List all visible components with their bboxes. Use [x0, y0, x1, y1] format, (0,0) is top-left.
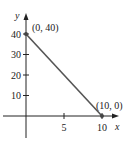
x-tick-label: 10 — [97, 122, 107, 133]
y-axis-arrow-icon — [24, 13, 29, 20]
y-tick-label: 20 — [11, 70, 21, 81]
y-tick-label: 40 — [11, 29, 21, 40]
series — [24, 32, 104, 118]
ticks: 51010203040 — [11, 29, 107, 134]
point-label: (10, 0) — [96, 100, 123, 112]
labels: xy(0, 40)(10, 0) — [14, 10, 123, 132]
y-tick-label: 30 — [11, 49, 21, 60]
y-tick-label: 10 — [11, 90, 21, 101]
series-line — [26, 34, 102, 116]
data-point — [100, 114, 104, 118]
data-point — [24, 32, 28, 36]
x-axis-label: x — [114, 121, 120, 132]
x-axis-arrow-icon — [112, 114, 119, 119]
y-axis-label: y — [14, 10, 20, 21]
chart: 51010203040 xy(0, 40)(10, 0) — [0, 0, 130, 144]
point-label: (0, 40) — [32, 22, 59, 34]
x-tick-label: 5 — [62, 122, 67, 133]
